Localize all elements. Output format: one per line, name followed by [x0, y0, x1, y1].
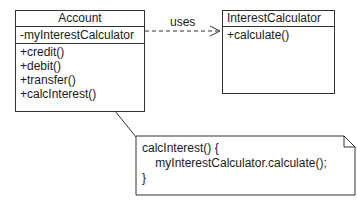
- operation-item: +credit(): [20, 45, 140, 59]
- operation-item: +transfer(): [20, 73, 140, 87]
- operation-item: +calcInterest(): [20, 87, 140, 101]
- account-class-name: Account: [16, 11, 144, 27]
- attribute-item: -myInterestCalculator: [20, 28, 140, 42]
- account-class-box[interactable]: Account -myInterestCalculator +credit() …: [15, 10, 145, 112]
- note-line: calcInterest() {: [142, 141, 327, 156]
- interest-calculator-class-box[interactable]: InterestCalculator +calculate(): [222, 10, 335, 94]
- interest-calculator-class-name: InterestCalculator: [223, 11, 334, 27]
- note-line: }: [142, 171, 327, 186]
- note-content: calcInterest() { myInterestCalculator.ca…: [142, 141, 327, 186]
- interest-calculator-operations: +calculate(): [223, 27, 334, 43]
- account-attributes: -myInterestCalculator: [16, 27, 144, 44]
- account-operations: +credit() +debit() +transfer() +calcInte…: [16, 44, 144, 102]
- note-line: myInterestCalculator.calculate();: [142, 156, 327, 171]
- operation-item: +debit(): [20, 59, 140, 73]
- operation-item: +calculate(): [227, 28, 330, 42]
- dependency-label: uses: [170, 15, 195, 29]
